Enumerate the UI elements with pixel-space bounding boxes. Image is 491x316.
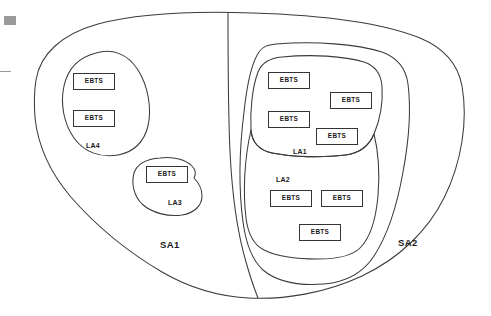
local-area-label-la1: LA1	[293, 148, 307, 155]
ebts-node-label: EBTS	[158, 171, 176, 177]
diagram-canvas: EBTS EBTS EBTS EBTS EBTS EBTS EBTS EBTS …	[0, 0, 491, 316]
diagram-outline-svg	[0, 0, 491, 316]
local-area-label-la4: LA4	[86, 142, 100, 149]
ebts-node[interactable]: EBTS	[146, 166, 188, 183]
ebts-node[interactable]: EBTS	[299, 224, 341, 241]
service-area-outer-boundary	[34, 12, 464, 298]
local-area-la4-outline	[62, 51, 149, 155]
ebts-node[interactable]: EBTS	[73, 110, 115, 127]
ebts-node[interactable]: EBTS	[321, 190, 363, 207]
scan-artifact-dash	[0, 71, 11, 72]
ebts-node-label: EBTS	[85, 115, 103, 121]
local-area-label-la2: LA2	[276, 176, 290, 183]
service-area-label-sa1: SA1	[160, 240, 180, 250]
ebts-node-label: EBTS	[342, 97, 360, 103]
ebts-node-label: EBTS	[282, 195, 300, 201]
scan-artifact-square	[4, 16, 16, 25]
ebts-node-label: EBTS	[280, 77, 298, 83]
service-area-divider	[228, 13, 258, 298]
local-area-label-la3: LA3	[168, 199, 182, 206]
ebts-node-label: EBTS	[311, 229, 329, 235]
ebts-node-label: EBTS	[280, 116, 298, 122]
ebts-node[interactable]: EBTS	[316, 128, 358, 145]
ebts-node[interactable]: EBTS	[270, 190, 312, 207]
service-area-label-sa2: SA2	[398, 238, 418, 248]
ebts-node[interactable]: EBTS	[268, 111, 310, 128]
ebts-node[interactable]: EBTS	[330, 92, 372, 109]
ebts-node[interactable]: EBTS	[268, 72, 310, 89]
ebts-node-label: EBTS	[328, 133, 346, 139]
ebts-node[interactable]: EBTS	[73, 73, 115, 90]
service-area-sa2-inner-enclosure	[240, 43, 409, 285]
ebts-node-label: EBTS	[85, 78, 103, 84]
ebts-node-label: EBTS	[333, 195, 351, 201]
